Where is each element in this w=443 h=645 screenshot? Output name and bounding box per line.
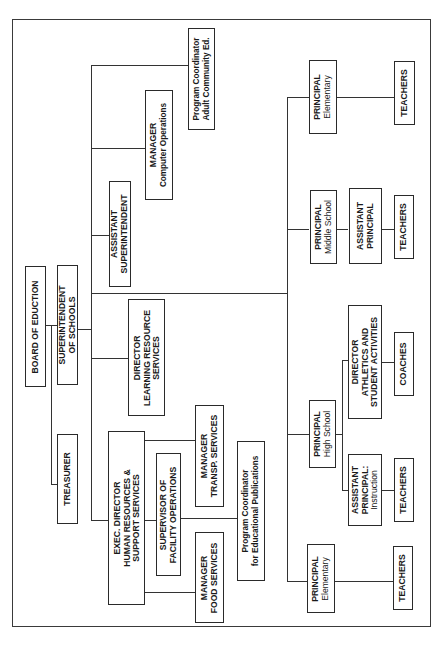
node-label: Program Coordinator: [241, 456, 251, 567]
assistant-principal-ms-box: ASSISTANTPRINCIPAL: [349, 188, 382, 264]
node-label: Elementary: [323, 74, 333, 120]
node-label: MANAGER: [200, 542, 210, 613]
node-label: TEACHERS: [399, 466, 409, 513]
connector-line: [381, 362, 394, 363]
node-label: Middle School: [324, 200, 334, 254]
coaches-box: COACHES: [394, 332, 414, 396]
teachers-box: TEACHERS: [394, 61, 415, 125]
connector-line: [287, 434, 309, 435]
node-label: DIRECTOR: [132, 310, 142, 406]
program-coordinator-publications-box: Program Coordinatorfor Educational Publi…: [237, 441, 265, 581]
connector-line: [145, 440, 195, 441]
node-label: TEACHERS: [400, 69, 410, 116]
assistant-superintendent-box: ASSISTANTSUPERINTENDENT: [109, 181, 131, 287]
connector-line: [180, 518, 237, 519]
connector-line: [78, 329, 91, 330]
teachers-box: TEACHERS: [393, 546, 413, 610]
connector-line: [287, 97, 309, 98]
principal-middle-school-box: PRINCIPALMiddle School: [310, 190, 337, 264]
node-label: Elementary: [321, 556, 331, 602]
node-label: High School: [323, 411, 333, 457]
node-label: for Educational Publications: [251, 456, 261, 567]
node-label: BOARD OF EDUCTION: [31, 280, 41, 373]
teachers-box: TEACHERS: [394, 195, 414, 259]
node-label: TEACHERS: [399, 203, 409, 250]
node-label: STUDENT ACTIVITIES: [370, 317, 380, 407]
manager-food-services-box: MANAGERFOOD SERVICES: [195, 532, 224, 623]
connector-line: [381, 490, 394, 491]
manager-transp-services-box: MANAGERTRANSP. SERVICES: [195, 405, 224, 507]
node-label: FOOD SERVICES: [210, 542, 220, 613]
node-label: SUPERINTENDENT: [58, 286, 68, 365]
node-label: PRINCIPAL: [366, 202, 376, 250]
connector-line: [91, 358, 128, 359]
manager-computer-operations-box: MANAGERComputer Operations: [145, 90, 173, 200]
connector-line: [51, 325, 52, 485]
node-label: TREASURER: [63, 452, 73, 505]
node-label: ASSISTANT: [356, 202, 366, 250]
node-label: MANAGER: [200, 415, 210, 497]
assistant-principal-instruction-box: ASSISTANTPRINCIPAL:Instruction: [348, 454, 382, 526]
principal-high-school-box: PRINCIPALHigh School: [309, 400, 336, 468]
connector-line: [145, 520, 156, 521]
node-label: SUPERVISOR OF: [159, 466, 169, 563]
director-athletics-box: DIRECTORATHLETICS ANDSTUDENT ACTIVITIES: [348, 305, 382, 419]
supervisor-facility-ops-box: SUPERVISOR OFFACILITY OPERATIONS: [156, 453, 181, 576]
node-label: MANAGER: [149, 103, 159, 187]
node-label: SUPERINTENDENT: [120, 195, 130, 274]
exec-director-box: EXEC. DIRECTORHUMAN RESOURCES &SUPPORT S…: [108, 431, 145, 605]
connector-line: [287, 229, 309, 230]
node-label: TRANSP. SERVICES: [210, 415, 220, 497]
node-label: SERVICES: [151, 310, 161, 406]
connector-line: [91, 65, 188, 66]
director-learning-resource-box: DIRECTORLEARNING RESOURCESERVICES: [128, 299, 165, 416]
node-label: FACILITY OPERATIONS: [169, 466, 179, 563]
connector-line: [334, 581, 394, 582]
connector-line: [336, 97, 394, 98]
node-label: OF SCHOOLS: [68, 286, 78, 365]
connector-line: [91, 293, 288, 294]
teachers-box: TEACHERS: [394, 458, 414, 522]
connector-line: [91, 148, 145, 149]
principal-elementary-box: PRINCIPALElementary: [307, 544, 335, 613]
node-label: PRINCIPAL: [313, 411, 323, 457]
node-label: Program Coordinator: [192, 37, 202, 120]
principal-elementary-box: PRINCIPALElementary: [309, 60, 337, 134]
node-label: TEACHERS: [398, 554, 408, 601]
connector-line: [336, 229, 348, 230]
node-label: PRINCIPAL: [314, 200, 324, 254]
program-coordinator-adult-ed-box: Program CoordinatorAdult Community Ed.: [188, 28, 215, 130]
node-label: Instruction: [370, 466, 380, 515]
node-label: EXEC. DIRECTOR: [112, 469, 122, 566]
superintendent-box: SUPERINTENDENTOF SCHOOLS: [57, 265, 78, 385]
connector-line: [287, 97, 288, 581]
connector-line: [45, 325, 57, 326]
node-label: COACHES: [399, 343, 409, 386]
connector-line: [91, 235, 109, 236]
connector-line: [381, 229, 395, 230]
connector-line: [145, 592, 195, 593]
connector-line: [342, 360, 343, 490]
board-of-education-box: BOARD OF EDUCTION: [25, 266, 46, 387]
treasurer-box: TREASURER: [57, 434, 78, 524]
connector-line: [91, 520, 108, 521]
connector-line: [287, 581, 309, 582]
node-label: Computer Operations: [159, 103, 169, 187]
node-label: Adult Community Ed.: [202, 37, 212, 120]
node-label: SUPPORT SERVICES: [131, 469, 141, 566]
